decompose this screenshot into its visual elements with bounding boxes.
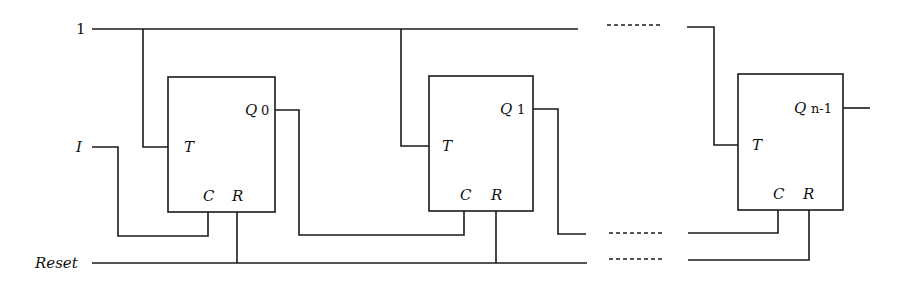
c-label: C — [773, 185, 785, 203]
t-label: T — [184, 138, 195, 156]
r-label: R — [802, 185, 814, 203]
wire-t0 — [143, 29, 168, 147]
wire-reset-last — [688, 210, 809, 260]
flipflop-0: Q 0 T C R — [168, 77, 275, 212]
q-index: n-1 — [811, 101, 832, 116]
q-label: Q — [794, 99, 806, 117]
t-label: T — [752, 136, 763, 154]
q-label: Q — [500, 100, 512, 118]
q-index: 0 — [261, 103, 269, 118]
r-label: R — [231, 187, 243, 205]
wire-t1 — [401, 29, 429, 146]
signal-label-one: 1 — [76, 20, 86, 38]
flipflop-1: Q 1 T C R — [429, 76, 533, 211]
counter-schematic: 1 I Reset Q 0 T C R Q 1 T C R — [0, 0, 908, 284]
q-index: 1 — [517, 102, 525, 117]
signal-label-input: I — [75, 138, 83, 156]
t-label: T — [442, 137, 453, 155]
q-label: Q — [245, 101, 257, 119]
wire-q1-out — [533, 109, 586, 234]
c-label: C — [203, 187, 215, 205]
flipflop-n-1: Q n-1 T C R — [738, 74, 843, 210]
r-label: R — [490, 186, 502, 204]
c-label: C — [460, 186, 472, 204]
signal-label-reset: Reset — [34, 254, 79, 272]
wire-to-c-last — [688, 210, 778, 233]
